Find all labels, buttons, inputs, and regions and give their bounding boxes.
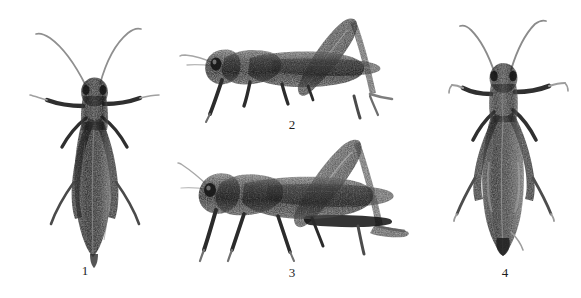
specimen-3-drawing xyxy=(178,130,428,262)
antennae xyxy=(36,29,141,86)
specimen-4-drawing xyxy=(445,12,581,256)
specimen-panel-4 xyxy=(445,12,581,256)
panel-4-caption: 4 xyxy=(493,266,517,280)
eye xyxy=(211,58,222,71)
specimen-panel-3 xyxy=(178,130,428,262)
specimen-panel-2 xyxy=(180,8,405,123)
figure-plate: 1 xyxy=(0,0,581,298)
panel-3-caption: 3 xyxy=(280,266,304,280)
specimen-panel-1 xyxy=(20,14,170,262)
eye xyxy=(204,183,216,197)
panel-1-caption: 1 xyxy=(73,264,97,278)
specimen-2-drawing xyxy=(180,8,405,123)
specimen-1-drawing xyxy=(20,14,170,262)
